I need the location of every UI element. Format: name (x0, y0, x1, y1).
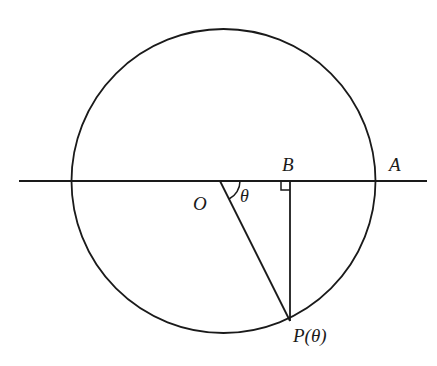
geometry-diagram (0, 0, 437, 366)
radius-OP (220, 181, 290, 321)
angle-theta-arc (229, 181, 240, 199)
label-theta: θ (240, 187, 249, 205)
label-P: P(θ) (293, 326, 327, 345)
label-A: A (389, 155, 401, 174)
label-O: O (193, 194, 207, 213)
label-B: B (282, 155, 294, 174)
right-angle-marker (281, 181, 290, 190)
